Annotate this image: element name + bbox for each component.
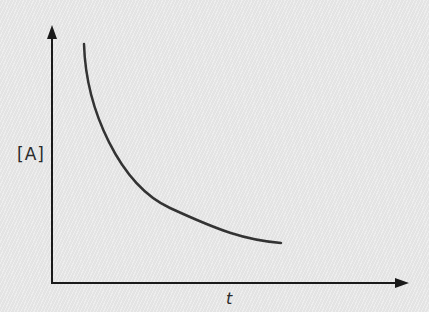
x-axis-label: t — [226, 289, 232, 308]
chart-plot — [0, 0, 429, 312]
y-axis-label: [A] — [17, 144, 45, 164]
chart: [A] t — [0, 0, 429, 312]
y-axis-arrow-icon — [47, 25, 57, 39]
x-axis-arrow-icon — [395, 278, 409, 288]
decay-curve — [84, 44, 281, 243]
